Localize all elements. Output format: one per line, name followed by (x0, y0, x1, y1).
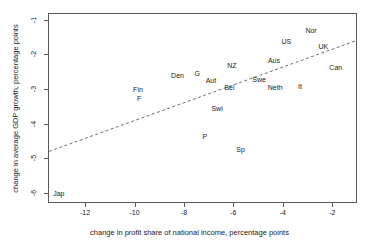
x-axis-tick (135, 203, 136, 207)
x-axis-tick-label: -6 (230, 209, 236, 217)
data-point-label: Swi (211, 105, 222, 113)
data-point-label: Jap (53, 190, 64, 198)
data-point-label: Can (329, 64, 342, 72)
plot-area: NorUSUKCanAusNZGDenAutSweBelNethItFinFSw… (48, 13, 357, 203)
data-point-label: Neth (268, 84, 283, 92)
y-axis-tick-label: -2 (30, 48, 38, 60)
x-axis-tick (233, 203, 234, 207)
data-point-label: Sp (236, 146, 245, 154)
x-axis-tick (332, 203, 333, 207)
x-axis-tick (85, 203, 86, 207)
scatter-chart-figure: NorUSUKCanAusNZGDenAutSweBelNethItFinFSw… (0, 0, 379, 247)
y-axis-tick (44, 89, 48, 90)
data-point-label: Aut (206, 77, 217, 85)
y-axis-tick-label: -4 (30, 118, 38, 130)
x-axis-tick-label: -2 (329, 209, 335, 217)
data-point-label: Fin (133, 86, 143, 94)
y-axis-tick (44, 158, 48, 159)
x-axis-tick-label: -12 (80, 209, 90, 217)
data-point-layer: NorUSUKCanAusNZGDenAutSweBelNethItFinFSw… (49, 14, 356, 202)
y-axis-tick (44, 124, 48, 125)
data-point-label: Nor (305, 27, 316, 35)
x-axis-title: change in profit share of national incom… (0, 228, 379, 237)
data-point-label: P (202, 133, 207, 141)
data-point-label: It (298, 83, 302, 91)
data-point-label: Den (171, 72, 184, 80)
data-point-label: UK (319, 43, 329, 51)
x-axis-tick (283, 203, 284, 207)
data-point-label: Swe (252, 76, 266, 84)
y-axis-tick-label: -5 (30, 152, 38, 164)
x-axis-tick (184, 203, 185, 207)
data-point-label: US (281, 38, 291, 46)
x-axis-tick-label: -10 (129, 209, 139, 217)
y-axis-tick-label: -6 (30, 187, 38, 199)
y-axis-title: change in average GDP growth, percentage… (11, 14, 20, 204)
data-point-label: Aus (268, 57, 280, 65)
y-axis-tick (44, 193, 48, 194)
y-axis-tick (44, 20, 48, 21)
x-axis-tick-label: -8 (181, 209, 187, 217)
data-point-label: F (137, 95, 141, 103)
data-point-label: Bel (224, 84, 234, 92)
y-axis-tick-label: -1 (30, 14, 38, 26)
data-point-label: G (195, 70, 200, 78)
y-axis-tick-label: -3 (30, 83, 38, 95)
y-axis-tick (44, 54, 48, 55)
x-axis-tick-label: -4 (280, 209, 286, 217)
data-point-label: NZ (227, 62, 236, 70)
